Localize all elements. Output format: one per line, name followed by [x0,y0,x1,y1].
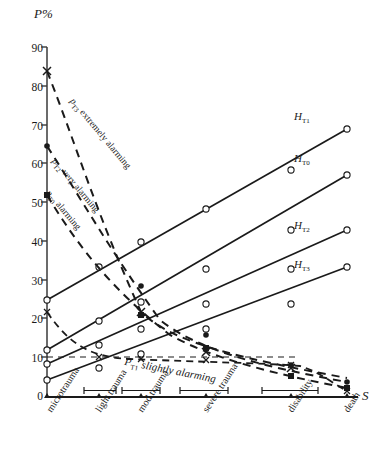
series-pt0 [44,192,350,391]
series-pt1 [44,309,350,394]
series-pt0-markers [44,192,350,391]
series-pt3-markers [43,67,295,372]
series-h-t2 [44,227,350,367]
series-pt3 [43,67,347,378]
series-h-t1 [44,126,350,303]
series-h-t3 [44,264,350,383]
series-h-t0 [44,172,350,353]
chart-figure: P% S 90 80 70 60 50 40 30 20 10 0 microt… [0,0,379,469]
plot-canvas [0,0,379,469]
x-interval-brackets [84,387,318,394]
series-pt1-markers [44,309,350,394]
